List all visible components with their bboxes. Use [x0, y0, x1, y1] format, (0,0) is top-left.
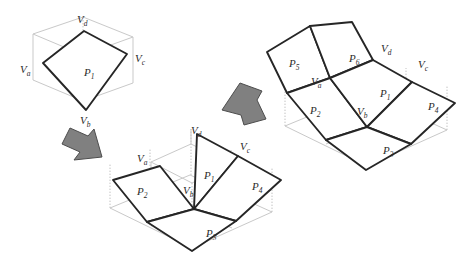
stage-1-group: Vd Vc Va Vb P1 — [20, 13, 146, 129]
label-vc-stage2: Vc — [240, 140, 251, 155]
label-vc-stage1: Vc — [135, 52, 146, 67]
label-vc-stage3: Vc — [418, 58, 429, 73]
arrow-stage1-to-stage2 — [62, 128, 102, 160]
label-vd-stage3: Vd — [381, 42, 392, 57]
stage-3-group: Vd Vc Va Vb P1 P2 P3 — [267, 22, 455, 170]
stage-2-group: Vd Vc Va Vb P1 P2 P3 — [110, 124, 281, 251]
label-vb-stage1: Vb — [80, 114, 91, 129]
diagram-figure: Vd Vc Va Vb P1 — [0, 0, 469, 269]
figure-canvas: Vd Vc Va Vb P1 — [0, 0, 469, 269]
label-vd-stage1: Vd — [77, 13, 88, 28]
label-va-stage1: Va — [20, 63, 31, 78]
arrow-stage2-to-stage3 — [222, 83, 266, 125]
label-va-stage2: Va — [137, 152, 148, 167]
